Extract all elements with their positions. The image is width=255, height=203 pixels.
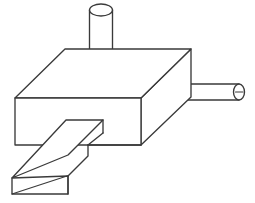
- technical-drawing-canvas: [0, 0, 255, 203]
- vertical-cylinder-top-ellipse: [90, 4, 113, 16]
- isometric-drawing-svg: [0, 0, 255, 203]
